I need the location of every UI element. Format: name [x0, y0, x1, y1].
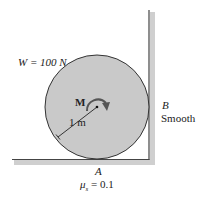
friction-value: = 0.1: [88, 178, 113, 190]
smooth-label: Smooth: [161, 113, 195, 124]
wall-shadow: [150, 12, 155, 164]
friction-label: μs = 0.1: [80, 179, 114, 193]
center-point: [96, 106, 99, 109]
moment-label: M: [75, 97, 85, 108]
floor-shadow: [14, 160, 155, 165]
point-a-label: A: [95, 166, 102, 177]
radius-label: 1 m: [69, 117, 86, 128]
weight-label: W = 100 N: [18, 57, 67, 68]
diagram-canvas: [0, 0, 209, 202]
point-b-label: B: [162, 100, 169, 111]
